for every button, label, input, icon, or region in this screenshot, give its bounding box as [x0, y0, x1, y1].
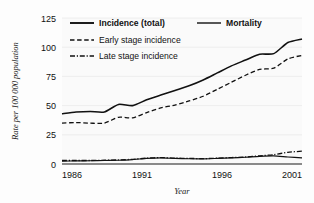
y-tick-100: 100 — [41, 43, 56, 53]
y-axis-label: Rate per 100 000 population — [10, 42, 20, 141]
legend-label-late-stage: Late stage incidence — [99, 51, 178, 61]
x-tick-1996: 1996 — [212, 170, 232, 180]
x-tick-2001: 2001 — [282, 170, 302, 180]
legend-label-incidence-total: Incidence (total) — [99, 18, 165, 28]
x-tick-1991: 1991 — [132, 170, 152, 180]
y-tick-125: 125 — [41, 14, 56, 24]
legend-label-mortality: Mortality — [226, 18, 262, 28]
legend-label-early-stage: Early stage incidence — [99, 35, 181, 45]
figure-container: 125 100 75 50 25 0 Rate per 100 000 popu… — [0, 0, 314, 203]
y-tick-50: 50 — [46, 101, 56, 111]
plot-background — [62, 18, 302, 164]
x-tick-1986: 1986 — [62, 170, 82, 180]
x-axis-ticks: 1986 1991 1996 2001 — [62, 170, 302, 180]
x-axis-label: Year — [174, 186, 190, 196]
line-chart: 125 100 75 50 25 0 Rate per 100 000 popu… — [0, 0, 314, 203]
y-tick-75: 75 — [46, 72, 56, 82]
y-axis-ticks: 125 100 75 50 25 0 — [41, 14, 56, 170]
y-tick-25: 25 — [46, 130, 56, 140]
y-tick-0: 0 — [51, 160, 56, 170]
